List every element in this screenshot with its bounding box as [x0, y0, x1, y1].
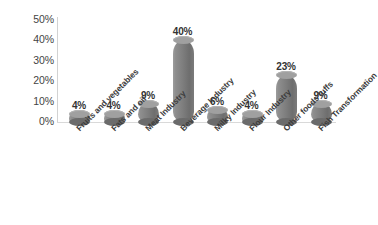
x-axis-category-label: Fats and oil: [109, 94, 148, 133]
y-axis-tick-labels: 0%10%20%30%40%50%: [0, 0, 54, 225]
y-axis-tick: 40%: [0, 33, 54, 45]
x-axis-category-label: Fruits and vegetables: [74, 67, 140, 133]
y-axis-tick: 30%: [0, 54, 54, 66]
y-axis-tick: 20%: [0, 74, 54, 86]
y-axis-tick: 0%: [0, 115, 54, 127]
x-axis-category-labels: Fruits and vegetablesFats and oilMeat In…: [58, 0, 342, 225]
y-axis-tick: 10%: [0, 95, 54, 107]
x-axis-category-label: Fish Transformation: [316, 70, 378, 133]
y-axis-tick: 50%: [0, 13, 54, 25]
